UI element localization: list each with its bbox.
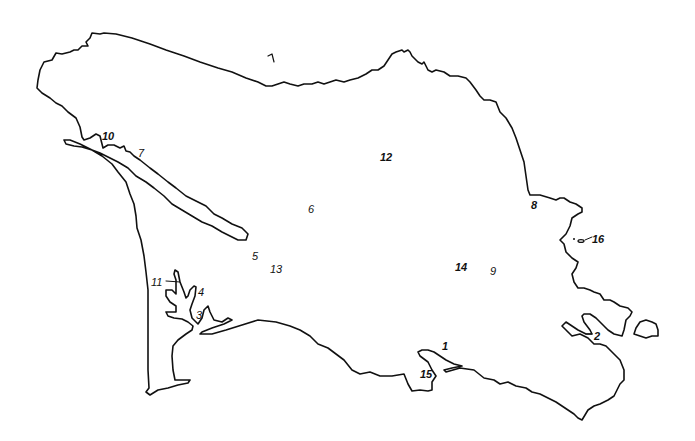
site-label-10: 10 [102, 131, 114, 142]
main-coastline [37, 33, 632, 420]
site-label-14: 14 [455, 262, 467, 273]
site-label-4: 4 [198, 287, 204, 298]
site-label-9: 9 [490, 266, 496, 277]
site-label-6: 6 [308, 204, 314, 215]
site-label-5: 5 [252, 251, 258, 262]
islet-16 [578, 240, 584, 243]
site-label-11: 11 [151, 277, 162, 288]
leader-line-11 [166, 281, 180, 282]
site-label-2: 2 [594, 331, 600, 342]
leader-line-16 [585, 237, 592, 240]
east-island [634, 320, 658, 338]
site-label-8: 8 [531, 200, 537, 211]
site-label-3: 3 [196, 310, 202, 321]
site-label-15: 15 [420, 369, 432, 380]
site-label-12: 12 [380, 152, 392, 163]
north-mark [268, 54, 274, 62]
islet-dot-16 [573, 238, 575, 240]
outline-map [0, 0, 695, 441]
site-label-16: 16 [592, 234, 604, 245]
site-label-7: 7 [138, 148, 144, 159]
site-label-13: 13 [270, 264, 282, 275]
site-label-1: 1 [442, 341, 448, 352]
